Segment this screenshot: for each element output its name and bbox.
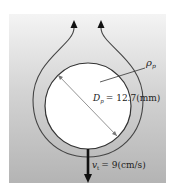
particle-settling-diagram: ρp Dp= 12.7(mm) vt= 9(cm/s) [0,0,175,192]
